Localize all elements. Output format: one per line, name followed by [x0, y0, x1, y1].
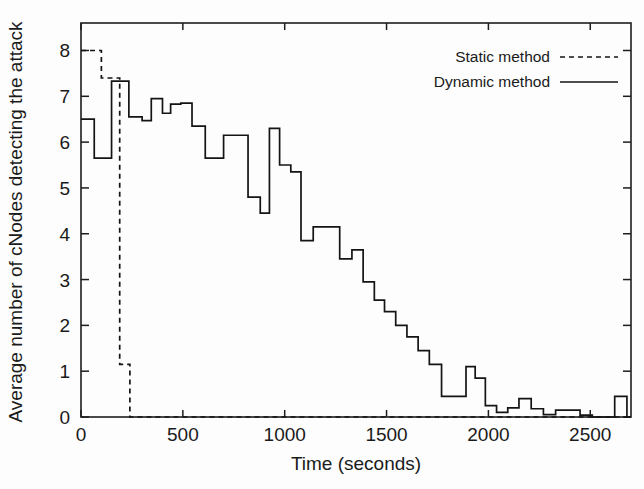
y-tick-label: 7 — [59, 86, 70, 107]
y-tick-label: 8 — [59, 40, 70, 61]
y-axis-title: Average number of cNodes detecting the a… — [5, 21, 26, 423]
y-tick-label: 3 — [59, 270, 70, 291]
y-axis-ticks — [81, 50, 631, 417]
x-tick-label: 0 — [76, 424, 87, 445]
y-tick-label: 1 — [59, 361, 70, 382]
x-tick-label: 500 — [167, 424, 199, 445]
chart-legend: Static methodDynamic method — [434, 48, 618, 90]
y-tick-label: 5 — [59, 178, 70, 199]
y-tick-label: 4 — [59, 224, 70, 245]
series-line-static-method — [81, 50, 631, 417]
legend-label-1: Static method — [455, 48, 550, 65]
series-line-dynamic-method — [81, 81, 631, 417]
chart-plot-area: 05001000150020002500 012345678 Static me… — [0, 0, 644, 489]
x-axis-title: Time (seconds) — [291, 453, 421, 474]
y-tick-label: 0 — [59, 407, 70, 428]
x-tick-label: 2500 — [569, 424, 611, 445]
legend-label-2: Dynamic method — [434, 73, 550, 90]
x-tick-label: 1000 — [264, 424, 306, 445]
y-tick-label: 6 — [59, 132, 70, 153]
x-tick-label: 2000 — [467, 424, 509, 445]
data-series-layer — [81, 50, 631, 417]
chart-figure: 05001000150020002500 012345678 Static me… — [0, 0, 644, 489]
x-axis-tick-labels: 05001000150020002500 — [76, 424, 612, 445]
x-tick-label: 1500 — [365, 424, 407, 445]
y-tick-label: 2 — [59, 315, 70, 336]
y-axis-tick-labels: 012345678 — [59, 40, 70, 428]
